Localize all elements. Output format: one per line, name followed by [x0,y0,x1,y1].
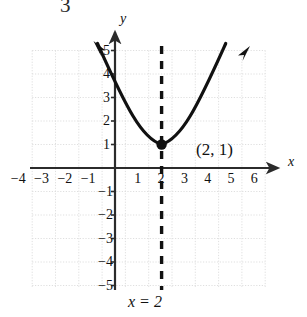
y-tick-label: −3 [98,232,113,246]
grid-lines [32,51,265,289]
vertex-point-marker [156,139,166,149]
y-tick-label: 5 [103,44,110,58]
x-tick-label: −4 [11,172,26,186]
y-tick-label: −1 [98,185,113,199]
vertex-coordinate-label: (2, 1) [196,141,233,158]
y-tick-label: 1 [103,138,110,152]
y-tick-label: −5 [98,279,113,293]
x-tick-label: 4 [204,172,211,186]
y-tick-label: −2 [98,208,113,222]
y-tick-label: 3 [103,91,110,105]
y-tick-label: 2 [103,114,110,128]
x-tick-label: 2 [158,172,165,186]
graph-figure: 3 y x (2, 1) x = 2 −4−3−2−1123456 54321−… [0,0,307,317]
curve-right-arrowhead-icon [238,46,250,61]
x-tick-label: 3 [181,172,188,186]
y-axis-label: y [120,12,126,26]
axis-of-symmetry-equation-label: x = 2 [128,294,162,310]
x-tick-label: 1 [134,172,141,186]
problem-number: 3 [60,0,71,16]
x-tick-label: −1 [81,172,96,186]
x-tick-label: −2 [57,172,72,186]
x-tick-label: −3 [34,172,49,186]
y-tick-label: −4 [98,255,113,269]
coordinate-plane-svg [0,0,307,317]
y-tick-label: 4 [103,67,110,81]
x-tick-label: 5 [228,172,235,186]
x-axis-label: x [288,155,294,169]
x-tick-label: 6 [251,172,258,186]
